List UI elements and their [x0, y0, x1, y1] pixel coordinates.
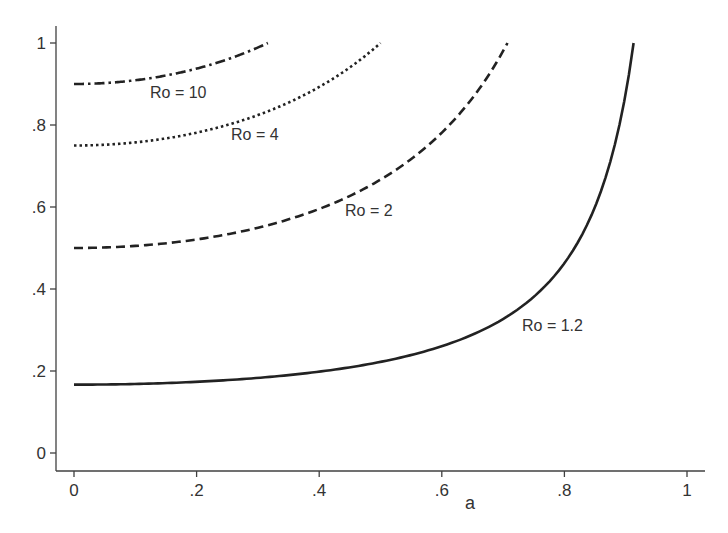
curve-label: Ro = 10 — [150, 84, 207, 101]
x-tick-label: .2 — [190, 481, 204, 500]
x-tick-label: .4 — [312, 481, 326, 500]
x-tick-label: .8 — [557, 481, 571, 500]
curve-label: Ro = 4 — [231, 126, 279, 143]
line-chart: 0.2.4.6.81 0.2.4.6.81 Ro = 10Ro = 4Ro = … — [0, 0, 728, 533]
x-tick-label: 1 — [682, 481, 691, 500]
y-tick-label: 0 — [37, 444, 46, 463]
curve-label: Ro = 2 — [345, 202, 393, 219]
y-tick-label: .4 — [32, 280, 46, 299]
y-tick-label: 1 — [37, 34, 46, 53]
x-tick-label: 0 — [69, 481, 78, 500]
chart-background — [0, 0, 728, 533]
x-axis-title: a — [465, 493, 476, 513]
curve-label: Ro = 1.2 — [522, 317, 583, 334]
y-tick-label: .6 — [32, 198, 46, 217]
x-tick-label: .6 — [435, 481, 449, 500]
y-tick-label: .8 — [32, 116, 46, 135]
y-tick-label: .2 — [32, 362, 46, 381]
